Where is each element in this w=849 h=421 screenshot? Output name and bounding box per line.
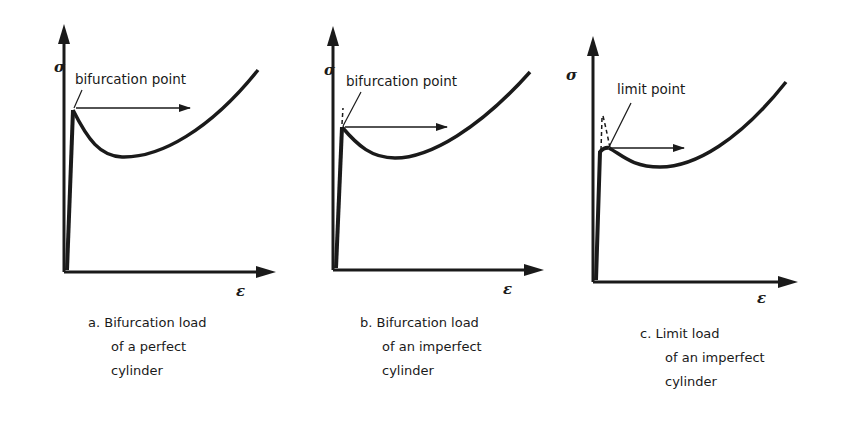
x-axis	[593, 276, 798, 288]
x-axis-label: ε	[503, 280, 512, 298]
perfect-path-dashed	[601, 116, 610, 150]
x-axis-arrow-icon	[256, 266, 276, 278]
prebuckling-path	[596, 148, 609, 280]
caption-line-2: of an imperfect	[665, 350, 765, 365]
y-axis-arrow-icon	[327, 26, 339, 46]
leader-line	[343, 92, 361, 126]
point-label: limit point	[617, 81, 685, 97]
x-axis	[64, 266, 276, 278]
leader-line	[74, 90, 82, 108]
leader-line	[609, 103, 631, 147]
panel-a: σ ε bifurcation point a. Bifurcation loa…	[54, 24, 276, 378]
x-axis-label: ε	[236, 282, 245, 300]
y-axis-arrow-icon	[587, 36, 599, 56]
stress-strain-figure: σ ε bifurcation point a. Bifurcation loa…	[0, 0, 849, 421]
x-axis-arrow-icon	[778, 276, 798, 288]
caption-line-1: a. Bifurcation load	[88, 315, 207, 330]
prebuckling-path	[67, 110, 73, 270]
caption-line-3: cylinder	[665, 374, 718, 389]
perfect-path-dashed	[342, 108, 343, 124]
caption-line-1: b. Bifurcation load	[360, 315, 479, 330]
caption-line-3: cylinder	[382, 363, 435, 378]
caption-line-3: cylinder	[111, 363, 164, 378]
y-axis-label: σ	[324, 61, 336, 79]
caption-line-2: of a perfect	[111, 339, 186, 354]
x-axis	[333, 264, 544, 276]
y-axis-label: σ	[54, 58, 66, 76]
panel-b: σ ε bifurcation point b. Bifurcation loa…	[324, 26, 544, 378]
prebuckling-path	[336, 127, 342, 268]
panel-c: σ ε limit point c. Limit load of an impe…	[566, 36, 798, 389]
y-axis-arrow-icon	[58, 24, 70, 44]
point-label: bifurcation point	[346, 73, 457, 89]
point-label: bifurcation point	[75, 71, 186, 87]
x-axis-arrow-icon	[524, 264, 544, 276]
caption-line-1: c. Limit load	[640, 326, 720, 341]
x-axis-label: ε	[757, 289, 766, 307]
y-axis-label: σ	[566, 66, 578, 84]
caption-line-2: of an imperfect	[382, 339, 482, 354]
